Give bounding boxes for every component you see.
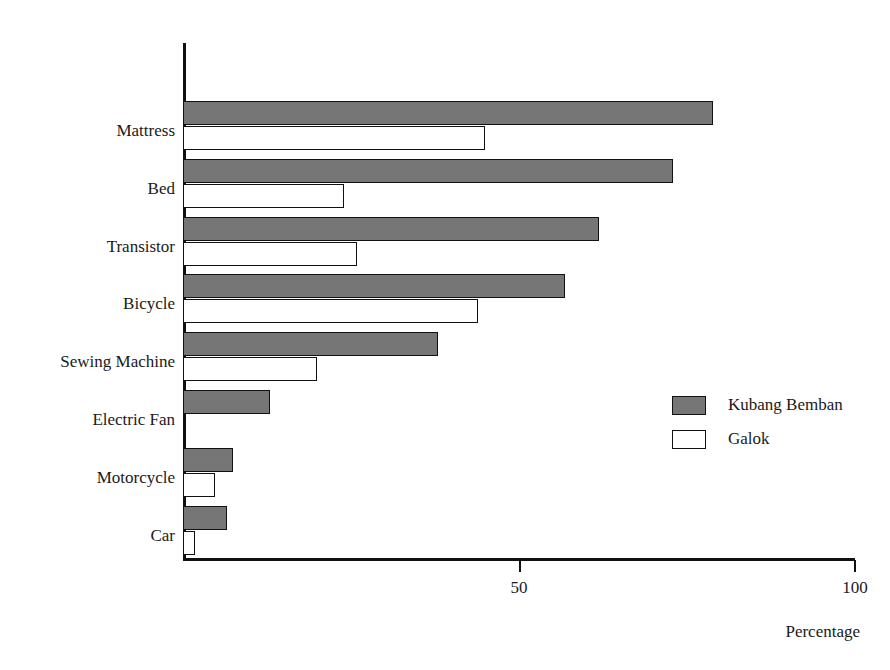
bar-bed-kubang-bemban [183, 159, 673, 183]
bar-motorcycle-galok [183, 473, 215, 497]
bar-mattress-galok [183, 126, 485, 150]
bar-group: Mattress [0, 101, 890, 150]
category-label-transistor: Transistor [0, 237, 175, 257]
bar-electric-fan-kubang-bemban [183, 390, 270, 414]
bar-car-galok [183, 531, 195, 555]
bar-transistor-kubang-bemban [183, 217, 599, 241]
legend-item-kubang-bemban: Kubang Bemban [672, 388, 843, 422]
x-axis-tick-label-100: 100 [842, 578, 868, 598]
bar-group: Sewing Machine [0, 332, 890, 381]
legend-label-galok: Galok [728, 429, 770, 449]
bar-bed-galok [183, 184, 344, 208]
bar-bicycle-kubang-bemban [183, 274, 565, 298]
x-axis-tick-label-50: 50 [511, 578, 528, 598]
bar-chart: 50 100 Percentage MattressBedTransistorB… [0, 0, 890, 670]
x-axis-title: Percentage [785, 622, 860, 642]
x-axis-tick-100 [854, 560, 856, 572]
legend-swatch-galok [672, 430, 706, 449]
category-label-sewing-machine: Sewing Machine [0, 352, 175, 372]
bar-group: Car [0, 506, 890, 555]
legend-item-galok: Galok [672, 422, 843, 456]
plot-area: 50 100 Percentage MattressBedTransistorB… [0, 0, 890, 670]
bar-bicycle-galok [183, 299, 478, 323]
category-label-mattress: Mattress [0, 121, 175, 141]
legend-swatch-kubang-bemban [672, 396, 706, 415]
bar-motorcycle-kubang-bemban [183, 448, 233, 472]
bar-sewing-machine-kubang-bemban [183, 332, 438, 356]
bar-car-kubang-bemban [183, 506, 227, 530]
bar-group: Bed [0, 159, 890, 208]
chart-legend: Kubang Bemban Galok [672, 388, 843, 456]
bar-group: Transistor [0, 217, 890, 266]
bar-mattress-kubang-bemban [183, 101, 713, 125]
x-axis-tick-50 [519, 560, 521, 572]
legend-label-kubang-bemban: Kubang Bemban [728, 395, 843, 415]
bar-transistor-galok [183, 242, 357, 266]
bar-group: Bicycle [0, 274, 890, 323]
category-label-bicycle: Bicycle [0, 294, 175, 314]
category-label-motorcycle: Motorcycle [0, 468, 175, 488]
category-label-bed: Bed [0, 179, 175, 199]
bar-sewing-machine-galok [183, 357, 317, 381]
category-label-electric-fan: Electric Fan [0, 410, 175, 430]
category-label-car: Car [0, 526, 175, 546]
